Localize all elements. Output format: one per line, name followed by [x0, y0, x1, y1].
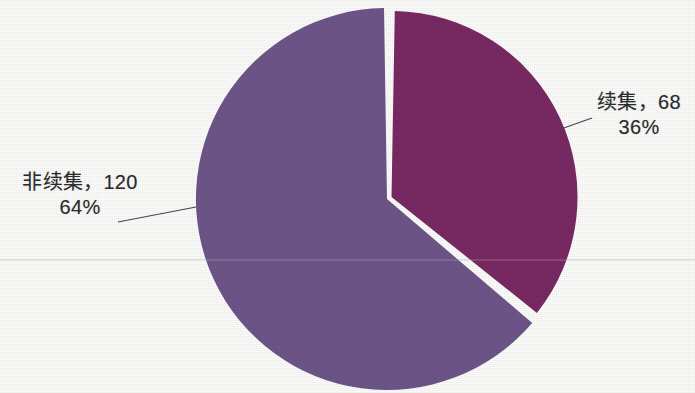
pie-label-nonsequel-percent: 64% [6, 195, 154, 220]
pie-label-sequel: 续集，68 36% [586, 90, 692, 140]
pie-label-sequel-name-value: 续集，68 [586, 90, 692, 115]
pie-chart-figure: 非续集，120 64% 续集，68 36% [0, 0, 695, 393]
pie-label-sequel-percent: 36% [586, 115, 692, 140]
pie-label-nonsequel: 非续集，120 64% [6, 170, 154, 220]
pie-label-nonsequel-name-value: 非续集，120 [6, 170, 154, 195]
